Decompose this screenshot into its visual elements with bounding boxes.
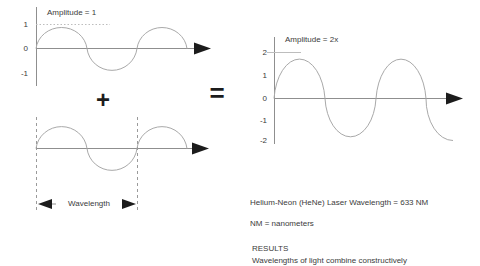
equals-operator: = [204, 80, 230, 106]
wave3-tick-neg2: -2 [247, 136, 267, 145]
wave-interference-diagram: Amplitude = 1 1 0 -1 + = Wavelength Ampl… [0, 0, 480, 266]
wavelength-arrow-left-icon [38, 199, 52, 209]
wave1-tick-neg1: -1 [10, 69, 28, 78]
laser-wavelength-note: Helium-Neon (HeNe) Laser Wavelength = 63… [250, 198, 428, 207]
wave1-axis-arrow-icon [194, 43, 211, 55]
wave3-plot [267, 37, 463, 144]
wave3-tick-1: 1 [247, 71, 267, 80]
wave3-tick-neg1: -1 [247, 116, 267, 125]
wave3-sine-curve [274, 59, 453, 140]
wave1-amplitude-label: Amplitude = 1 [47, 8, 96, 17]
wave2-axis-arrow-icon [192, 143, 209, 155]
wavelength-arrow-right-icon [122, 199, 136, 209]
wave1-tick-0: 0 [10, 44, 28, 53]
wave1-tick-1: 1 [10, 20, 28, 29]
plus-operator: + [92, 88, 114, 112]
wave3-tick-0: 0 [247, 94, 267, 103]
results-text: Wavelengths of light combine constructiv… [252, 256, 407, 265]
results-heading: RESULTS [252, 244, 288, 253]
wave3-axis-arrow-icon [446, 93, 463, 105]
diagram-linework [0, 0, 480, 266]
wave3-tick-2: 2 [247, 48, 267, 57]
wave1-plot [36, 7, 211, 86]
nm-definition-note: NM = nanometers [250, 219, 314, 228]
wavelength-label: Wavelength [56, 199, 122, 208]
wave3-amplitude-label: Amplitude = 2x [285, 35, 338, 44]
